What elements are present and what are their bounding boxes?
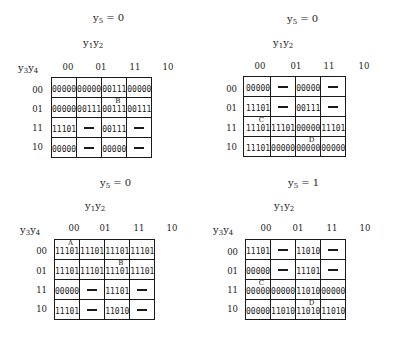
dont-care-dash-icon bbox=[84, 147, 94, 149]
kmap-cell-dont-care bbox=[127, 138, 152, 158]
table-row: C11101 11101 00000 11101 bbox=[244, 117, 346, 137]
kmap-cell: 00000 bbox=[127, 78, 152, 98]
dont-care-dash-icon bbox=[328, 106, 338, 108]
kmap-cell: 00000 bbox=[77, 78, 102, 98]
dont-care-dash-icon bbox=[137, 289, 147, 291]
column-header: 10 bbox=[151, 62, 185, 72]
kmap-cell: B11101 bbox=[105, 260, 130, 280]
dont-care-dash-icon bbox=[134, 127, 144, 129]
cell-marker-d: D bbox=[309, 136, 315, 144]
kmap-cell: 00111 bbox=[127, 98, 152, 118]
row-header: 10 bbox=[223, 142, 237, 152]
table-row: 00000 00000 bbox=[244, 77, 346, 97]
kmap-cell: 11101 bbox=[296, 260, 321, 280]
row-header: 01 bbox=[33, 266, 47, 276]
kmap-cell: 11101 bbox=[52, 118, 77, 138]
row-header: 01 bbox=[29, 104, 43, 114]
dont-care-dash-icon bbox=[87, 309, 97, 311]
dont-care-dash-icon bbox=[278, 106, 288, 108]
kmap-grid: A11101 11101 11101 11101 11101 11101 B11… bbox=[54, 239, 155, 320]
kmap-grid: 11101 11010 00000 11101 C00000 00000 110… bbox=[245, 239, 346, 320]
kmap-cell: D00000 bbox=[296, 137, 321, 157]
table-row: 11101 11010 bbox=[55, 300, 155, 320]
kmap-cell: 11010 bbox=[296, 280, 321, 300]
kmap-cell: 00000 bbox=[321, 280, 346, 300]
kmap-cell: 00111 bbox=[77, 98, 102, 118]
kmap-title: y5 = 0 bbox=[93, 12, 124, 25]
row-header: 00 bbox=[29, 85, 43, 95]
kmap-cell: A11101 bbox=[55, 240, 80, 260]
kmap-cell: 11101 bbox=[130, 260, 155, 280]
kmap-cell-dont-care bbox=[130, 300, 155, 320]
table-row: C00000 00000 11010 00000 bbox=[246, 280, 346, 300]
kmap-cell: 00000 bbox=[296, 117, 321, 137]
kmap-cell: 11101 bbox=[321, 117, 346, 137]
kmap-cell: 11010 bbox=[105, 300, 130, 320]
kmap-cell: 11101 bbox=[105, 280, 130, 300]
column-header: 01 bbox=[84, 62, 118, 72]
row-header: 00 bbox=[224, 247, 238, 257]
kmap-cell-dont-care bbox=[77, 138, 102, 158]
table-row: 11101 00111 bbox=[244, 97, 346, 117]
kmap-cell: 00000 bbox=[246, 260, 271, 280]
table-row: 11101 00000 D00000 00000 bbox=[244, 137, 346, 157]
kmap-title: y5 = 0 bbox=[100, 177, 131, 190]
kmap-cell-dont-care bbox=[321, 77, 346, 97]
table-row: A11101 11101 11101 11101 bbox=[55, 240, 155, 260]
kmap-cell: 11101 bbox=[244, 97, 271, 117]
table-row: 00000 11101 bbox=[55, 280, 155, 300]
cell-marker-c: C bbox=[259, 279, 264, 287]
kmap-cell-dont-care bbox=[321, 240, 346, 260]
kmap-cell: C00000 bbox=[246, 280, 271, 300]
row-header: 11 bbox=[29, 123, 43, 133]
column-header: 01 bbox=[281, 223, 315, 233]
cell-marker-b: B bbox=[118, 259, 123, 267]
row-header: 10 bbox=[33, 304, 47, 314]
dont-care-dash-icon bbox=[137, 309, 147, 311]
cell-marker-d: D bbox=[309, 299, 315, 307]
kmap-cell: 00000 bbox=[296, 77, 321, 97]
column-header: 01 bbox=[88, 223, 122, 233]
kmap-cell-dont-care bbox=[80, 280, 105, 300]
kmap-cell-dont-care bbox=[271, 97, 296, 117]
column-header: 11 bbox=[315, 223, 349, 233]
kmap-cell: 00000 bbox=[271, 280, 296, 300]
kmap-cell: 11101 bbox=[244, 137, 271, 157]
dont-care-dash-icon bbox=[328, 269, 338, 271]
row-header: 10 bbox=[29, 142, 43, 152]
kmap-cell-dont-care bbox=[321, 97, 346, 117]
column-variable-label: y1y2 bbox=[85, 200, 105, 213]
kmap-cell: 11010 bbox=[271, 300, 296, 320]
table-row: 00000 00000 00111 00000 bbox=[52, 78, 152, 98]
kmap-cell: 11010 bbox=[321, 300, 346, 320]
kmap-cell-dont-care bbox=[271, 260, 296, 280]
kmap-cell: C11101 bbox=[244, 117, 271, 137]
column-header: 10 bbox=[348, 223, 382, 233]
kmap-cell: 11101 bbox=[55, 300, 80, 320]
row-header: 01 bbox=[224, 266, 238, 276]
kmap-cell: 00000 bbox=[52, 98, 77, 118]
table-row: 00000 11101 bbox=[246, 260, 346, 280]
table-row: 11101 11010 bbox=[246, 240, 346, 260]
column-header: 10 bbox=[347, 61, 381, 71]
row-header: 00 bbox=[223, 84, 237, 94]
kmap-title: y5 = 0 bbox=[287, 13, 318, 26]
column-header: 10 bbox=[155, 223, 189, 233]
kmap-grid: 00000 00000 11101 00111 C11101 11101 000… bbox=[243, 76, 346, 157]
row-header: 11 bbox=[33, 285, 47, 295]
column-header: 11 bbox=[122, 223, 156, 233]
column-variable-label: y1y2 bbox=[83, 37, 103, 50]
table-row: 00000 11010 D11010 11010 bbox=[246, 300, 346, 320]
kmap-cell: 11101 bbox=[80, 260, 105, 280]
dont-care-dash-icon bbox=[134, 147, 144, 149]
kmap-cell-dont-care bbox=[130, 280, 155, 300]
kmap-cell: 00111 bbox=[102, 118, 127, 138]
table-row: 11101 00111 bbox=[52, 118, 152, 138]
column-header: 11 bbox=[312, 61, 346, 71]
kmap-cell-dont-care bbox=[271, 240, 296, 260]
kmap-cell: 00111 bbox=[296, 97, 321, 117]
dont-care-dash-icon bbox=[84, 127, 94, 129]
row-variable-label: y3y4 bbox=[213, 224, 233, 237]
kmap-cell: 00000 bbox=[52, 78, 77, 98]
kmap-cell: 00000 bbox=[246, 300, 271, 320]
